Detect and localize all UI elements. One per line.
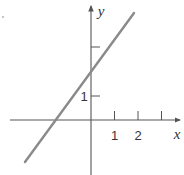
x-tick-label-1: 1 bbox=[111, 128, 118, 143]
y-tick-label-1: 1 bbox=[80, 89, 87, 104]
x-tick-label-2: 2 bbox=[134, 128, 141, 143]
stray-dot bbox=[2, 16, 4, 18]
coordinate-plane: 1 2 1 x y bbox=[0, 0, 184, 175]
y-axis-label: y bbox=[96, 3, 105, 19]
x-axis-label: x bbox=[173, 126, 181, 142]
